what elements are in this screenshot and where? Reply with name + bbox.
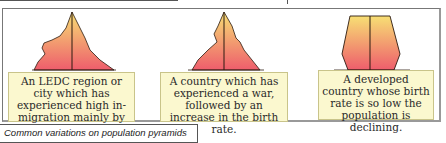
panel-3-description: A developed country whose birth rate is … xyxy=(318,70,434,120)
top-tick xyxy=(287,0,288,4)
top-rule xyxy=(0,0,178,1)
panel-1-description: An LEDC region or city which has experie… xyxy=(8,72,135,122)
panel-2-description: A country which has experienced a war, f… xyxy=(160,72,288,122)
pyramid-declining-population-icon xyxy=(334,14,410,74)
pyramid-inmigration-young-men-icon xyxy=(30,10,120,72)
pyramid-war-then-baby-boom-icon xyxy=(178,10,268,72)
figure-caption: Common variations on population pyramids xyxy=(0,124,198,143)
